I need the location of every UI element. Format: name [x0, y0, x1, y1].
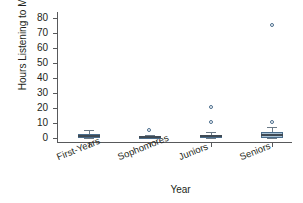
median-line	[139, 136, 161, 138]
y-tick-mark	[53, 48, 57, 49]
whisker-cap-upper	[206, 132, 216, 133]
x-tick-label: Seniors	[238, 140, 272, 162]
y-tick-label: 0	[8, 133, 48, 143]
median-line	[78, 135, 100, 137]
y-tick-mark	[53, 18, 57, 19]
outlier-point	[209, 105, 213, 109]
whisker-cap-lower	[267, 138, 277, 139]
y-tick-mark	[53, 63, 57, 64]
x-tick-mark	[211, 143, 212, 147]
y-tick-mark	[53, 138, 57, 139]
y-tick-mark	[53, 78, 57, 79]
outlier-point	[147, 128, 151, 132]
x-tick-label: Juniors	[177, 141, 210, 163]
y-tick-mark	[53, 33, 57, 34]
outlier-point	[270, 23, 274, 27]
y-tick-mark	[53, 93, 57, 94]
whisker-cap-lower	[84, 138, 94, 139]
y-tick-label: 80	[8, 13, 48, 23]
y-tick-label: 10	[8, 118, 48, 128]
boxplot-figure: Hours Listening to Music Year 0102030405…	[0, 0, 303, 203]
y-tick-label: 50	[8, 58, 48, 68]
outlier-point	[209, 120, 213, 124]
y-tick-label: 30	[8, 88, 48, 98]
y-tick-mark	[53, 108, 57, 109]
y-tick-label: 60	[8, 43, 48, 53]
median-line	[261, 134, 283, 136]
plot-area	[58, 12, 303, 142]
x-axis-label: Year	[58, 184, 303, 195]
y-tick-label: 20	[8, 103, 48, 113]
y-tick-label: 70	[8, 28, 48, 38]
whisker-cap-upper	[84, 130, 94, 131]
outlier-point	[270, 120, 274, 124]
x-tick-mark	[272, 143, 273, 147]
y-tick-mark	[53, 123, 57, 124]
median-line	[200, 135, 222, 137]
whisker-cap-lower	[206, 138, 216, 139]
y-tick-label: 40	[8, 73, 48, 83]
whisker-cap-upper	[267, 127, 277, 128]
